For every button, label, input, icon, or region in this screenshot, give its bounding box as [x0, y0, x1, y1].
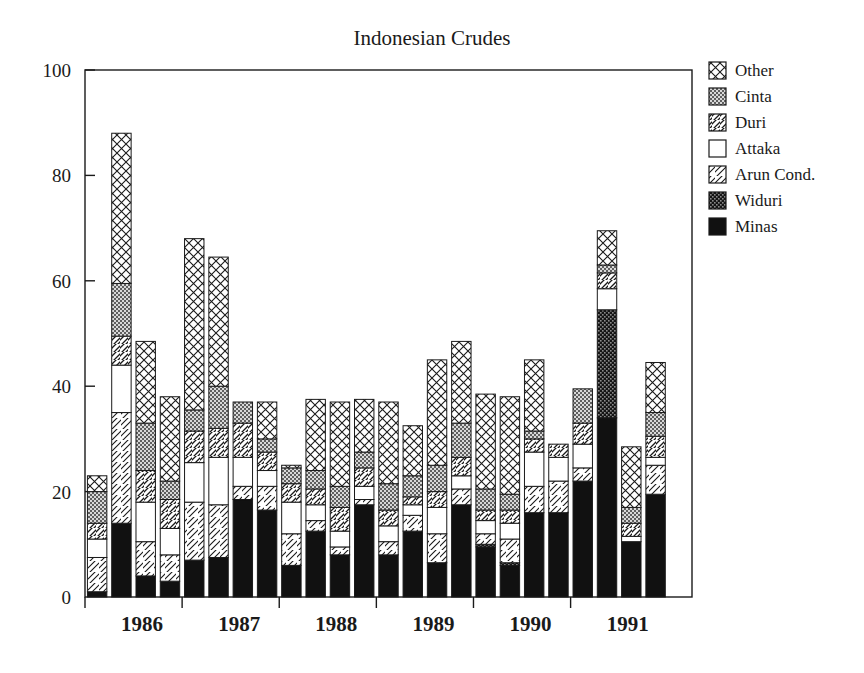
page-title: Indonesian Crudes: [354, 26, 511, 50]
stacked-bar: [573, 389, 592, 597]
bar-segment: [427, 534, 446, 563]
bar-segment: [209, 505, 228, 558]
bar-segment: [403, 505, 422, 516]
chart-container: Indonesian Crudes 020406080100 198619871…: [0, 0, 864, 673]
bar-segment: [136, 576, 155, 597]
bar-segment: [257, 486, 276, 510]
bar-segment: [330, 507, 349, 531]
bar-segment: [524, 431, 543, 439]
bar-segment: [160, 555, 179, 581]
stacked-bar: [403, 426, 422, 597]
bar-segment: [185, 502, 204, 560]
stacked-bar: [330, 402, 349, 597]
stacked-bar: [476, 394, 495, 597]
bar-segment: [597, 265, 616, 273]
bar-segment: [185, 560, 204, 597]
bar-segment: [646, 465, 665, 494]
x-tick-label: 1989: [412, 612, 454, 636]
bar-segment: [282, 534, 301, 566]
bar-segment: [257, 452, 276, 470]
bar-segment: [257, 510, 276, 597]
bar-segment: [646, 457, 665, 465]
bar-segment: [597, 273, 616, 289]
bar-segment: [112, 336, 131, 365]
bar-segment: [233, 402, 252, 423]
bar-segment: [379, 402, 398, 484]
y-tick-label: 80: [52, 165, 71, 186]
stacked-bar: [185, 239, 204, 597]
bar-segment: [87, 557, 106, 591]
stacked-bar: [524, 360, 543, 597]
bar-segment: [112, 283, 131, 336]
bar-segment: [476, 510, 495, 521]
bar-segment: [282, 465, 301, 468]
legend-label: Arun Cond.: [735, 165, 815, 184]
bar-segment: [427, 465, 446, 491]
stacked-bar: [500, 397, 519, 597]
bar-segment: [87, 492, 106, 524]
bar-segment: [136, 341, 155, 423]
legend-swatch-minas: [709, 218, 726, 235]
bar-segment: [306, 521, 325, 532]
stacked-bar: [427, 360, 446, 597]
bar-segment: [452, 457, 471, 475]
bar-segment: [452, 423, 471, 457]
bar-segment: [136, 471, 155, 503]
bar-segment: [306, 471, 325, 489]
bar-segment: [87, 523, 106, 539]
legend-swatch-duri: [709, 114, 726, 131]
bar-segment: [427, 492, 446, 508]
y-tick-label: 100: [43, 60, 72, 81]
stacked-bar: [87, 476, 106, 597]
bar-segment: [549, 481, 568, 513]
bar-segment: [209, 428, 228, 457]
bar-segment: [597, 289, 616, 310]
bar-segment: [524, 513, 543, 597]
legend-label: Minas: [735, 217, 778, 236]
bar-segment: [476, 489, 495, 510]
bar-segment: [500, 510, 519, 523]
x-tick-label: 1987: [218, 612, 260, 636]
bar-segment: [160, 528, 179, 554]
bar-segment: [282, 502, 301, 534]
bar-segment: [233, 500, 252, 597]
bar-segment: [330, 486, 349, 507]
bar-segment: [476, 521, 495, 534]
bar-segment: [233, 457, 252, 486]
bar-segment: [233, 486, 252, 499]
legend-swatch-arun-cond: [709, 166, 726, 183]
bar-segment: [379, 484, 398, 510]
bar-segment: [500, 523, 519, 539]
bar-segment: [355, 505, 374, 597]
x-tick-label: 1986: [121, 612, 163, 636]
bar-segment: [209, 457, 228, 504]
bar-segment: [403, 531, 422, 597]
bar-segment: [355, 399, 374, 452]
bars-layer: [87, 133, 665, 597]
bar-segment: [330, 402, 349, 486]
bar-segment: [87, 539, 106, 557]
legend-swatch-cinta: [709, 88, 726, 105]
x-tick-label: 1991: [607, 612, 649, 636]
bar-segment: [306, 505, 325, 521]
bar-segment: [500, 494, 519, 510]
legend-swatch-other: [709, 62, 726, 79]
bar-segment: [257, 471, 276, 487]
legend: OtherCintaDuriAttakaArun Cond.WiduriMina…: [709, 61, 815, 236]
x-axis: 198619871988198919901991: [85, 597, 649, 636]
bar-segment: [160, 500, 179, 529]
bar-segment: [646, 494, 665, 597]
bar-segment: [185, 239, 204, 410]
bar-segment: [87, 476, 106, 492]
y-tick-label: 40: [52, 376, 71, 397]
stacked-bar: [233, 402, 252, 597]
bar-segment: [573, 481, 592, 597]
stacked-bar: [646, 362, 665, 597]
bar-segment: [136, 423, 155, 470]
bar-segment: [209, 257, 228, 386]
stacked-bar: [209, 257, 228, 597]
bar-segment: [452, 505, 471, 597]
bar-segment: [622, 507, 641, 523]
bar-segment: [476, 547, 495, 597]
bar-segment: [257, 439, 276, 452]
